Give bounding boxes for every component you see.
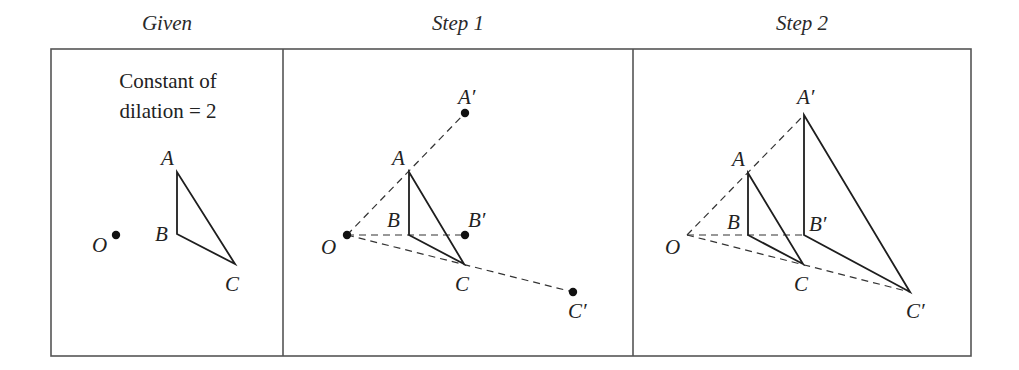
label-b-prime: B′ <box>809 212 827 236</box>
label-c: C <box>455 272 470 296</box>
triangle-abc <box>177 172 235 264</box>
label-a: A <box>159 146 174 170</box>
diagram-frame <box>51 49 971 356</box>
point-c-prime <box>569 288 577 296</box>
label-c-prime: C′ <box>906 299 925 323</box>
label-b: B <box>387 208 400 232</box>
dilation-diagram: Constant of dilation = 2 O A B C O A B C… <box>0 0 1019 370</box>
point-a-prime <box>461 109 469 117</box>
dilation-constant-line2: dilation = 2 <box>119 99 216 123</box>
label-a: A <box>390 146 405 170</box>
ray-o-a-prime <box>347 113 465 235</box>
label-o: O <box>321 235 336 259</box>
center-point-o <box>343 231 351 239</box>
panel-step-2: O A B C A′ B′ C′ <box>665 85 925 323</box>
label-o: O <box>665 235 680 259</box>
panel-given: Constant of dilation = 2 O A B C <box>92 69 240 296</box>
label-a-prime: A′ <box>795 85 815 109</box>
panel-step-1: O A B C A′ B′ C′ <box>321 85 587 323</box>
label-b: B <box>155 222 168 246</box>
center-point-o <box>112 231 120 239</box>
label-c: C <box>794 272 809 296</box>
label-a: A <box>730 147 745 171</box>
triangle-abc <box>748 173 803 264</box>
point-b-prime <box>461 231 469 239</box>
label-o: O <box>92 233 107 257</box>
ray-o-a-prime <box>687 115 804 235</box>
label-c: C <box>225 272 240 296</box>
label-b-prime: B′ <box>468 208 486 232</box>
triangle-abc <box>409 172 464 264</box>
dilation-constant-line1: Constant of <box>119 69 216 93</box>
label-a-prime: A′ <box>456 85 476 109</box>
label-b: B <box>727 210 740 234</box>
triangle-a-prime-b-prime-c-prime <box>804 115 910 292</box>
label-c-prime: C′ <box>568 299 587 323</box>
